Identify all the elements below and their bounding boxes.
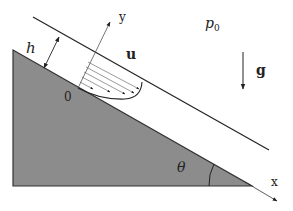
label-theta: θ (177, 159, 186, 175)
label-u: u (126, 46, 136, 62)
incline-solid (13, 50, 252, 186)
label-x: x (271, 175, 278, 189)
thickness-arrow (44, 37, 59, 68)
velocity-arrows (80, 62, 139, 94)
diagram-canvas: h y u p0 g θ x 0 (0, 0, 293, 211)
label-p-subscript: 0 (214, 23, 220, 33)
label-p: p (205, 15, 214, 31)
label-p0: p0 (205, 15, 220, 33)
label-y: y (118, 10, 126, 24)
y-axis-arrow (78, 22, 110, 88)
label-h: h (26, 39, 36, 57)
label-g: g (256, 62, 266, 78)
label-origin: 0 (64, 90, 72, 104)
